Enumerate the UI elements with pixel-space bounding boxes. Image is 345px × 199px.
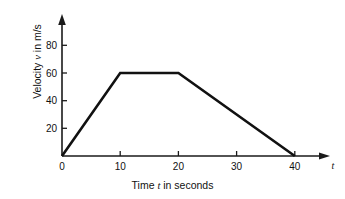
y-tick-label-80: 80: [46, 40, 58, 51]
x-axis-title: Time t in seconds: [0, 179, 345, 191]
x-tick-label-0: 0: [59, 161, 65, 172]
x-axis-title-suffix: in seconds: [163, 179, 213, 191]
y-axis-title-variable: v: [32, 55, 43, 60]
y-tick-label-40: 40: [46, 95, 58, 106]
x-axis-title-variable: t: [157, 180, 160, 191]
velocity-data-line: [62, 73, 295, 156]
y-axis-title: Velocity v in m/s: [31, 0, 44, 137]
y-tick-label-60: 60: [46, 68, 58, 79]
x-axis-title-prefix: Time: [132, 179, 155, 191]
y-axis-arrow-icon: [58, 14, 66, 25]
y-axis-title-prefix: Velocity: [31, 63, 43, 99]
y-axis-title-suffix: in m/s: [31, 24, 43, 52]
velocity-time-graph-figure: 20 40 60 80 0 10 20 30 40 t Velocity v i…: [0, 0, 345, 199]
chart-plot-area: 20 40 60 80 0 10 20 30 40 t: [0, 0, 345, 199]
x-tick-label-40: 40: [289, 161, 301, 172]
x-tick-label-20: 20: [173, 161, 185, 172]
y-tick-label-20: 20: [46, 123, 58, 134]
x-axis-arrow-icon: [319, 152, 330, 159]
x-axis-symbol-label: t: [332, 160, 335, 171]
x-tick-label-30: 30: [231, 161, 243, 172]
x-tick-label-10: 10: [115, 161, 127, 172]
